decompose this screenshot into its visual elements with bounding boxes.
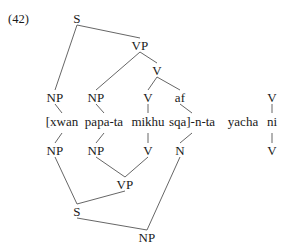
terminal-word-4: yacha — [228, 115, 258, 128]
stem-word-to-N-l1 — [180, 133, 192, 143]
edge-V-l1-to-VP-low — [125, 157, 148, 177]
tree-node-n-l1: N — [175, 144, 185, 157]
tree-node-s-low: S — [73, 205, 80, 218]
tree-node-np-l2: NP — [87, 144, 104, 157]
edge-VP-top-to-NP-u2 — [96, 52, 140, 90]
terminal-word-2: mikhu — [131, 115, 164, 128]
syntax-tree-figure: (42) SVPVNPNPVafVNPNPVNVPSNPV [xwanpapa-… — [0, 0, 292, 248]
tree-node-v-top: V — [152, 64, 162, 77]
terminal-word-0: [xwan — [46, 115, 79, 128]
tree-node-np-u2: NP — [87, 91, 104, 104]
tree-node-np-l1: NP — [46, 144, 63, 157]
edge-V-top-to-af-u1 — [157, 77, 180, 90]
edge-VP-top-to-V-top — [140, 52, 157, 63]
tree-node-s-top: S — [73, 12, 80, 25]
stem-word-to-NP-l1 — [55, 133, 62, 143]
edge-NP-l2-to-VP-low — [96, 157, 125, 177]
tree-node-vp-top: VP — [131, 39, 148, 52]
tree-node-np-u1: NP — [46, 91, 63, 104]
stem-NP-u1-to-word — [55, 104, 62, 113]
edge-N-l1-to-NP-low — [147, 157, 180, 230]
edge-VP-low-to-S-low — [77, 191, 125, 204]
tree-node-v-l1: V — [143, 144, 153, 157]
terminal-string-row: [xwanpapa-tamikhusqa]-n-tayachani — [0, 115, 292, 131]
edge-S-top-to-VP-top — [77, 25, 140, 38]
stem-NP-u2-to-word — [96, 104, 104, 113]
tree-node-v-u1: V — [143, 91, 153, 104]
terminal-word-3: sqa]-n-ta — [169, 115, 215, 128]
edge-S-top-to-NP-u1 — [55, 25, 77, 90]
stem-word-to-NP-l2 — [96, 133, 104, 143]
terminal-word-1: papa-ta — [85, 115, 123, 128]
tree-node-v-right-top: V — [267, 91, 277, 104]
tree-node-af-u1: af — [175, 91, 186, 104]
tree-node-vp-low: VP — [116, 178, 133, 191]
edge-V-top-to-V-u1 — [148, 77, 157, 90]
edge-S-low-to-NP-low — [77, 218, 147, 230]
tree-node-v-right-bottom: V — [267, 144, 277, 157]
terminal-word-5: ni — [267, 115, 277, 128]
stem-af-u1-to-word — [180, 104, 192, 113]
tree-node-np-low: NP — [138, 231, 155, 244]
edge-NP-l1-to-S-low — [55, 157, 77, 204]
